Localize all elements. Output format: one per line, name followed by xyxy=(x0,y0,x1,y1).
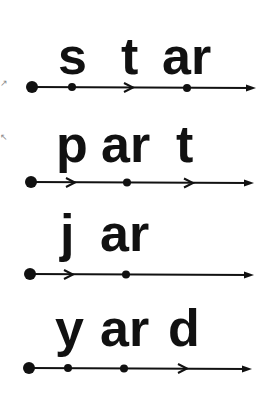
dot-icon xyxy=(183,84,191,92)
start-dot-icon xyxy=(25,176,37,188)
word-row-part: p ar t xyxy=(0,100,271,195)
arrowhead-icon xyxy=(242,366,252,373)
sound-line xyxy=(0,358,271,378)
arrowhead-icon xyxy=(244,272,254,279)
segment-p: p xyxy=(56,118,88,170)
segment-t: t xyxy=(176,118,193,170)
dot-icon xyxy=(122,271,130,279)
segment-y: y xyxy=(55,302,84,354)
segment-j: j xyxy=(60,207,74,259)
word-row-yard: y ar d xyxy=(0,290,271,395)
segment-ar: ar xyxy=(162,30,211,82)
start-dot-icon xyxy=(23,362,35,374)
sound-line xyxy=(0,172,271,192)
arrowhead-icon xyxy=(246,85,256,92)
dot-icon xyxy=(120,365,128,373)
segment-ar: ar xyxy=(100,207,149,259)
word-row-star: s t ar xyxy=(0,0,271,100)
segment-ar: ar xyxy=(100,302,149,354)
dot-icon xyxy=(68,83,76,91)
segment-ar: ar xyxy=(101,118,150,170)
arrowhead-icon xyxy=(244,180,254,187)
word-row-jar: j ar xyxy=(0,195,271,290)
segment-d: d xyxy=(168,302,200,354)
segment-s: s xyxy=(58,30,87,82)
dot-icon xyxy=(123,179,131,187)
sound-line xyxy=(0,264,271,284)
segment-t: t xyxy=(121,30,138,82)
dot-icon xyxy=(64,364,72,372)
sound-line xyxy=(0,77,271,97)
start-dot-icon xyxy=(24,268,36,280)
start-dot-icon xyxy=(26,81,38,93)
